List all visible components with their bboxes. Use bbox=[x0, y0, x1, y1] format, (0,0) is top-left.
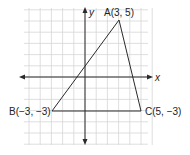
x-axis-left-arrow-icon bbox=[19, 75, 25, 80]
coordinate-plane: y x A(3, 5) B(−3, −3) C(5, −3) bbox=[0, 0, 190, 155]
point-b-label: B(−3, −3) bbox=[9, 106, 51, 117]
point-c-label: C(5, −3) bbox=[145, 106, 181, 117]
x-axis-label: x bbox=[154, 72, 161, 83]
point-a-label: A(3, 5) bbox=[104, 7, 134, 18]
y-axis-label: y bbox=[88, 7, 95, 18]
y-axis bbox=[83, 7, 88, 145]
